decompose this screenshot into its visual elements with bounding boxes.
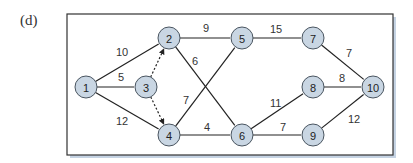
node-label: 2 — [166, 33, 172, 45]
diagram-frame — [67, 14, 393, 155]
node-label: 6 — [239, 130, 245, 142]
edge-weight-2-6: 6 — [192, 55, 198, 67]
edge-weight-6-8: 11 — [270, 97, 281, 109]
network-diagram: 105129674157811712 12345678910 — [0, 0, 413, 163]
edge-weight-4-6: 4 — [204, 121, 210, 133]
node-8: 8 — [302, 76, 324, 98]
edge-weight-2-5: 9 — [203, 22, 209, 34]
node-2: 2 — [158, 27, 180, 49]
edge-weight-1-4: 12 — [116, 115, 128, 127]
edge-weight-6-9: 7 — [280, 121, 286, 133]
node-3: 3 — [135, 76, 157, 98]
edge-weight-5-7: 15 — [270, 23, 282, 35]
edge-weight-7-10: 7 — [346, 47, 352, 59]
node-6: 6 — [231, 124, 253, 146]
node-label: 4 — [166, 130, 172, 142]
node-label: 7 — [310, 33, 316, 45]
edge-weight-9-10: 12 — [348, 113, 360, 125]
node-10: 10 — [362, 76, 384, 98]
node-label: 9 — [310, 130, 316, 142]
edge-weight-4-5: 7 — [183, 94, 189, 106]
edge-weight-1-2: 10 — [116, 46, 128, 58]
node-1: 1 — [75, 76, 97, 98]
node-label: 5 — [239, 33, 245, 45]
edge-weight-8-10: 8 — [339, 72, 345, 84]
edge-weight-1-3: 5 — [118, 71, 124, 83]
node-7: 7 — [302, 27, 324, 49]
node-label: 1 — [83, 82, 89, 94]
node-5: 5 — [231, 27, 253, 49]
node-label: 3 — [143, 82, 149, 94]
node-4: 4 — [158, 124, 180, 146]
node-label: 10 — [367, 82, 379, 94]
node-9: 9 — [302, 124, 324, 146]
node-label: 8 — [310, 82, 316, 94]
